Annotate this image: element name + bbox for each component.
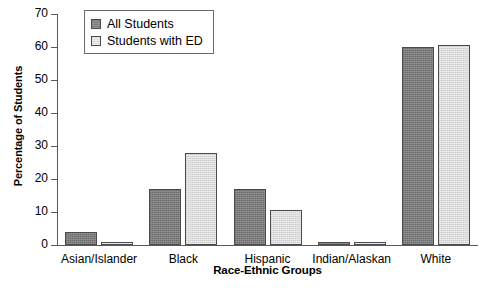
bar (438, 45, 470, 245)
bar-group (234, 14, 302, 245)
legend-swatch-icon (91, 36, 101, 46)
y-axis-line (57, 14, 58, 246)
bar (149, 189, 181, 245)
y-tick-label: 30 (35, 138, 48, 152)
bar-chart-figure: Percentage of Students 010203040506070 A… (0, 0, 492, 292)
bar (65, 232, 97, 245)
legend-label: Students with ED (107, 34, 203, 48)
y-tick-mark (51, 212, 57, 213)
y-tick-mark (51, 179, 57, 180)
bar (354, 242, 386, 245)
legend-swatch-icon (91, 19, 101, 29)
bar (402, 47, 434, 245)
y-axis-title: Percentage of Students (12, 26, 24, 226)
bar (234, 189, 266, 245)
bar-group (318, 14, 386, 245)
x-axis-line (57, 245, 478, 246)
y-tick-label: 70 (35, 6, 48, 20)
y-tick-mark (51, 47, 57, 48)
legend-item: All Students (91, 15, 203, 32)
bar (318, 242, 350, 245)
y-tick-label: 40 (35, 105, 48, 119)
legend: All StudentsStudents with ED (84, 10, 214, 54)
legend-label: All Students (107, 17, 174, 31)
y-tick-mark (51, 113, 57, 114)
y-tick-label: 50 (35, 72, 48, 86)
y-tick-mark (51, 245, 57, 246)
y-tick-mark (51, 80, 57, 81)
bar (185, 153, 217, 245)
y-tick-label: 0 (41, 237, 48, 251)
x-axis-title: Race-Ethnic Groups (57, 264, 478, 276)
legend-item: Students with ED (91, 32, 203, 49)
bar (101, 242, 133, 245)
y-tick-mark (51, 14, 57, 15)
y-tick-label: 60 (35, 39, 48, 53)
y-tick-label: 20 (35, 171, 48, 185)
y-tick-label: 10 (35, 204, 48, 218)
bar-group (402, 14, 470, 245)
y-tick-mark (51, 146, 57, 147)
bar (270, 210, 302, 245)
